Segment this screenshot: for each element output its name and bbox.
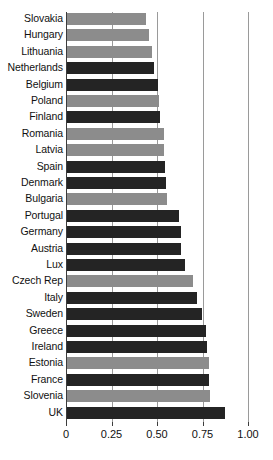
- bar: [67, 308, 202, 320]
- category-label: Sweden: [0, 308, 63, 319]
- bar: [67, 407, 225, 419]
- x-tick: [112, 422, 113, 426]
- bar: [67, 210, 179, 222]
- category-label: Poland: [0, 95, 63, 106]
- bar: [67, 79, 158, 91]
- bar: [67, 374, 209, 386]
- category-label: Germany: [0, 226, 63, 237]
- bar: [67, 46, 152, 58]
- bar: [67, 341, 207, 353]
- x-tick: [203, 422, 204, 426]
- x-tick-label: 0.50: [146, 428, 167, 441]
- category-label: Slovenia: [0, 390, 63, 401]
- category-label: Greece: [0, 325, 63, 336]
- category-label: Portugal: [0, 210, 63, 221]
- bar: [67, 111, 160, 123]
- bar: [67, 177, 166, 189]
- bar: [67, 29, 149, 41]
- bar: [67, 128, 164, 140]
- category-label: Bulgaria: [0, 193, 63, 204]
- bar: [67, 193, 167, 205]
- category-label: UK: [0, 407, 63, 418]
- category-label: Lithuania: [0, 46, 63, 57]
- category-label: Austria: [0, 243, 63, 254]
- bar: [67, 95, 159, 107]
- category-label: Netherlands: [0, 62, 63, 73]
- bar-chart: SlovakiaHungaryLithuaniaNetherlandsBelgi…: [0, 0, 273, 460]
- category-label: Spain: [0, 161, 63, 172]
- category-label: France: [0, 374, 63, 385]
- category-label: Estonia: [0, 357, 63, 368]
- gridline-1: [248, 12, 249, 422]
- category-label: Hungary: [0, 29, 63, 40]
- x-axis-tick-labels: 00.250.500.751.00: [0, 428, 273, 448]
- category-label: Slovakia: [0, 13, 63, 24]
- category-axis-labels: SlovakiaHungaryLithuaniaNetherlandsBelgi…: [0, 0, 63, 460]
- category-label: Finland: [0, 111, 63, 122]
- bar: [67, 325, 206, 337]
- x-tick: [248, 422, 249, 426]
- category-label: Latvia: [0, 144, 63, 155]
- bar: [67, 259, 185, 271]
- category-label: Czech Rep: [0, 275, 63, 286]
- x-tick-label: 0.25: [101, 428, 122, 441]
- x-tick-label: 1.00: [237, 428, 258, 441]
- x-tick-label: 0: [63, 428, 69, 441]
- bar: [67, 357, 209, 369]
- bar: [67, 390, 210, 402]
- bar: [67, 144, 164, 156]
- bar: [67, 62, 154, 74]
- x-tick: [157, 422, 158, 426]
- category-label: Lux: [0, 259, 63, 270]
- category-label: Ireland: [0, 341, 63, 352]
- category-label: Belgium: [0, 79, 63, 90]
- x-tick: [66, 422, 67, 426]
- plot-area: [66, 12, 273, 422]
- bar: [67, 292, 197, 304]
- bar: [67, 243, 181, 255]
- bar: [67, 13, 146, 25]
- category-label: Romania: [0, 128, 63, 139]
- bar: [67, 275, 193, 287]
- bar: [67, 226, 181, 238]
- category-label: Italy: [0, 292, 63, 303]
- bar: [67, 161, 165, 173]
- x-tick-label: 0.75: [192, 428, 213, 441]
- category-label: Denmark: [0, 177, 63, 188]
